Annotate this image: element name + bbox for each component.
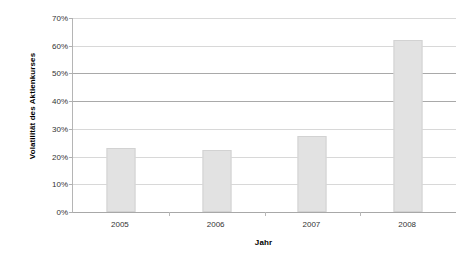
bar-slot [169,18,265,212]
x-axis-tick-label: 2005 [111,220,129,229]
bar-slot [73,18,169,212]
y-axis-tick-label: 30% [36,124,68,133]
bar[interactable] [202,150,231,212]
y-axis-tick-label: 20% [36,152,68,161]
x-axis-tick-label: 2007 [302,220,320,229]
x-axis-tick-labels: 2005200620072008 [72,220,455,232]
bar-series [73,18,456,212]
bar-slot [265,18,361,212]
bar[interactable] [394,40,423,212]
y-axis-tick-label: 10% [36,180,68,189]
y-axis-tick-label: 40% [36,97,68,106]
y-axis-tick-mark [69,129,73,130]
plot-area [72,18,456,213]
x-axis-tick-label: 2006 [207,220,225,229]
y-axis-tick-label: 70% [36,14,68,23]
y-axis-tick-mark [69,18,73,19]
x-axis-tick-mark [169,212,170,216]
y-axis-tick-mark [69,73,73,74]
y-axis-tick-mark [69,46,73,47]
bar[interactable] [106,148,135,212]
y-axis-tick-mark [69,184,73,185]
bar-slot [360,18,456,212]
x-axis-tick-mark [265,212,266,216]
y-axis-tick-label: 50% [36,69,68,78]
x-axis-title: Jahr [72,238,455,247]
y-axis-tick-mark [69,101,73,102]
x-axis-tick-mark [360,212,361,216]
y-axis-tick-label: 0% [36,208,68,217]
bar[interactable] [298,136,327,212]
x-axis-tick-label: 2008 [398,220,416,229]
bar-chart: Volatilität des Aktienkurses 0%10%20%30%… [0,0,470,262]
y-axis-tick-mark [69,212,73,213]
y-axis-tick-labels: 0%10%20%30%40%50%60%70% [36,18,68,212]
y-axis-tick-mark [69,157,73,158]
y-axis-tick-label: 60% [36,41,68,50]
